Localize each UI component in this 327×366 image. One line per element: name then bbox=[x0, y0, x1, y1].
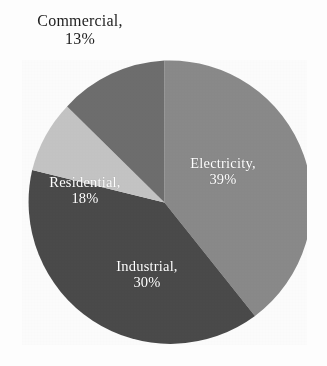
pie-label-residential-value: 18% bbox=[26, 190, 144, 206]
pie-label-electricity-name: Electricity, bbox=[168, 155, 278, 171]
pie-label-residential-name: Residential, bbox=[26, 174, 144, 190]
pie-chart-figure: Commercial, 13% Electricity, 39% Residen… bbox=[0, 0, 327, 366]
pie-label-electricity-value: 39% bbox=[168, 171, 278, 187]
pie-label-commercial-value: 13% bbox=[20, 30, 140, 48]
pie-label-industrial: Industrial, 30% bbox=[92, 258, 202, 290]
pie-label-electricity: Electricity, 39% bbox=[168, 155, 278, 187]
pie-label-commercial: Commercial, 13% bbox=[20, 12, 140, 48]
pie-label-commercial-name: Commercial, bbox=[20, 12, 140, 30]
pie-label-residential: Residential, 18% bbox=[26, 174, 144, 206]
pie-label-industrial-value: 30% bbox=[92, 274, 202, 290]
pie-label-industrial-name: Industrial, bbox=[92, 258, 202, 274]
